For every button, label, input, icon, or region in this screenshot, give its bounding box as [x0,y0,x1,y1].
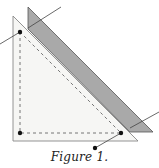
figure-caption: Figure 1. [0,150,159,164]
outer-triangle [13,16,138,141]
folded-triangle-diagram [0,0,159,168]
dot-top-left [18,30,22,34]
dot-bottom-left [18,131,22,135]
dot-bottom-right [119,131,123,135]
